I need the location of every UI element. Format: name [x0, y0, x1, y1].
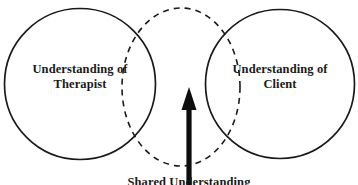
- circle-therapist: [5, 9, 156, 160]
- circle-shared-understanding-dashed: [122, 8, 240, 166]
- venn-diagram: Understanding of Therapist Understanding…: [0, 0, 358, 185]
- arrow-up-icon: [182, 87, 197, 185]
- circle-client: [206, 10, 355, 159]
- venn-diagram-canvas: [0, 0, 358, 185]
